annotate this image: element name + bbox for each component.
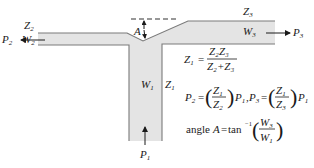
svg-text:−1: −1 — [245, 120, 252, 127]
svg-text:tan: tan — [228, 123, 242, 135]
svg-text:P2: P2 — [184, 91, 196, 105]
svg-text:=: = — [261, 91, 267, 103]
z3-label: Z3 — [243, 5, 253, 19]
svg-text:angle: angle — [186, 123, 210, 135]
equation-z1: Z1 = Z₂Z₃ Z₂+Z₃ — [184, 45, 237, 72]
p3-port-label: P3 — [292, 26, 304, 40]
svg-text:P1: P1 — [234, 91, 245, 105]
svg-text:A: A — [212, 123, 220, 135]
z1-label: Z1 — [165, 78, 175, 92]
p1-port-label: P1 — [139, 148, 150, 162]
equation-power-split: P2 = ( Z1 Z2 ) P1 , P3 = ( Z1 Z3 ) P1 — [184, 84, 308, 112]
z2-label: Z2 — [24, 19, 34, 33]
svg-text:Z1: Z1 — [184, 53, 194, 67]
svg-text:(: ( — [268, 84, 275, 109]
svg-text:Z₂Z₃: Z₂Z₃ — [209, 45, 229, 57]
svg-text:=: = — [198, 91, 204, 103]
line2-bottom-edge — [38, 45, 129, 141]
svg-text:): ) — [276, 117, 283, 142]
equation-angle: angle A = tan −1 ( W3 W1 ) — [186, 116, 283, 145]
t-junction-diagram: A Z2 W2 P2 Z3 W3 P3 W1 Z1 P1 Z1 = Z₂Z₃ Z… — [0, 0, 314, 168]
angle-label: A — [133, 25, 141, 37]
svg-text:Z2: Z2 — [213, 98, 223, 112]
svg-text:(: ( — [252, 117, 259, 142]
svg-text:Z1: Z1 — [213, 84, 223, 98]
p2-port-label: P2 — [1, 33, 13, 47]
svg-text:): ) — [227, 84, 234, 109]
svg-text:W1: W1 — [260, 131, 273, 145]
svg-text:=: = — [221, 123, 227, 135]
svg-text:Z3: Z3 — [276, 98, 286, 112]
svg-text:P1: P1 — [297, 91, 308, 105]
svg-text:W3: W3 — [260, 116, 273, 130]
svg-text:(: ( — [205, 84, 212, 109]
angle-arrow-icon-down — [144, 30, 145, 38]
svg-text:Z₂+Z₃: Z₂+Z₃ — [207, 60, 234, 72]
svg-text:=: = — [198, 53, 204, 65]
svg-text:P3: P3 — [248, 91, 260, 105]
svg-text:Z1: Z1 — [276, 84, 286, 98]
svg-text:): ) — [290, 84, 297, 109]
